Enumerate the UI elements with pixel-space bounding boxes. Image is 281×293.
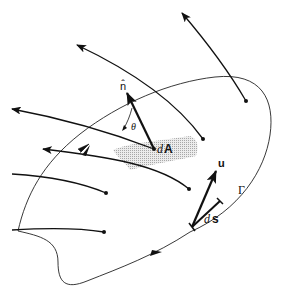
velocity-label: u bbox=[218, 157, 225, 169]
ds-label: ds bbox=[204, 212, 219, 226]
streamline-5 bbox=[12, 174, 106, 193]
normal-label: n̂ bbox=[120, 79, 126, 92]
streamline-6-origin bbox=[102, 230, 106, 234]
closed-curve-gamma bbox=[18, 76, 271, 284]
streamline-2 bbox=[77, 45, 203, 139]
flux-diagram: n̂ θ dA u ds Γ bbox=[0, 0, 281, 293]
streamline-2-origin bbox=[201, 137, 205, 141]
angle-label: θ bbox=[131, 121, 136, 132]
area-element-patch bbox=[113, 136, 198, 170]
ds-d: d bbox=[204, 212, 211, 226]
streamline-5-origin bbox=[104, 191, 108, 195]
curve-label: Γ bbox=[238, 183, 245, 197]
angle-arc-arrowhead bbox=[122, 125, 127, 131]
area-d: d bbox=[157, 142, 164, 156]
area-A: A bbox=[164, 142, 173, 156]
streamline-1 bbox=[182, 13, 246, 101]
curve-direction-arrow-lower bbox=[150, 250, 162, 256]
streamline-1-origin bbox=[244, 99, 248, 103]
streamline-6 bbox=[12, 229, 104, 232]
ds-s: s bbox=[212, 212, 219, 226]
streamline-4-origin bbox=[187, 187, 191, 191]
area-element-point bbox=[152, 147, 156, 151]
area-element-label: dA bbox=[157, 142, 173, 156]
